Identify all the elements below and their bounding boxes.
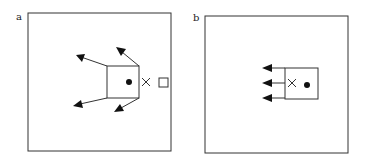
- arrow-up-right-icon: [122, 52, 139, 66]
- panel-b: b: [193, 12, 348, 153]
- arrow-down-left-icon: [80, 98, 107, 104]
- figure: a b: [0, 0, 365, 159]
- panel-a-square: [107, 66, 139, 98]
- panel-a: a: [16, 11, 171, 151]
- arrow-down-right-icon: [121, 98, 139, 108]
- cross-icon: [142, 78, 150, 86]
- panel-a-label: a: [16, 11, 22, 22]
- dot-icon: [304, 82, 310, 88]
- panel-b-arrows: [262, 64, 285, 102]
- panel-a-frame: [28, 13, 171, 151]
- small-square-icon: [159, 78, 168, 87]
- arrow-up-left-icon: [81, 57, 107, 66]
- panel-b-square: [285, 68, 318, 99]
- panel-b-label: b: [193, 12, 199, 23]
- panel-b-frame: [205, 16, 348, 153]
- cross-icon: [288, 79, 296, 87]
- dot-icon: [126, 79, 132, 85]
